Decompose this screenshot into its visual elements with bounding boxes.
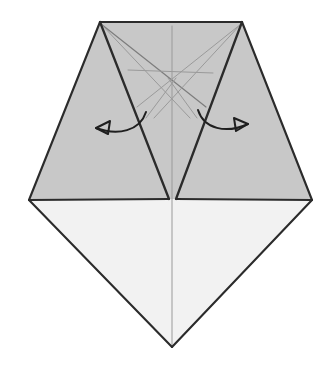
left-base-edge [29, 199, 169, 200]
right-base-edge [176, 199, 312, 200]
origami-diagram [0, 0, 326, 368]
origami-figure [0, 0, 326, 368]
